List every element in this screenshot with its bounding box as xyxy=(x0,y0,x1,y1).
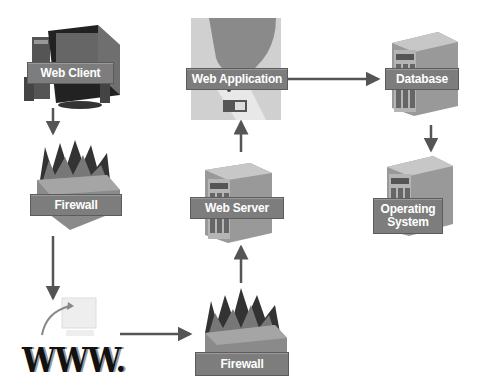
label-web-server: Web Server xyxy=(190,197,284,219)
label-operating-system-line2: System xyxy=(387,216,429,229)
label-firewall-left: Firewall xyxy=(30,194,122,216)
label-web-application: Web Application xyxy=(186,68,288,90)
label-database: Database xyxy=(385,68,459,90)
label-web-client: Web Client xyxy=(27,62,114,84)
label-firewall-bottom: Firewall xyxy=(195,352,289,376)
label-operating-system: Operating System xyxy=(373,198,443,234)
